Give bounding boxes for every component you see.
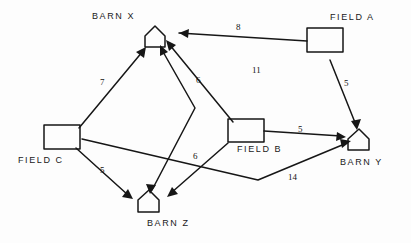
node-label-field-a: FIELD A [330,12,375,22]
edge-weight-barn-z-to-barn-x: 6 [196,75,201,85]
edge-weight-field-b-to-barn-z: 6 [193,151,198,161]
node-field-a[interactable] [307,28,343,52]
edge-weight-field-a-to-barn-y: 5 [344,78,349,88]
node-label-barn-z: BARN Z [147,218,190,228]
edge-weight-field-c-to-barn-y: 14 [288,172,297,182]
node-barn-x[interactable] [145,26,165,47]
edge-weight-field-c-to-barn-z: 5 [100,165,105,175]
node-label-field-b: FIELD B [237,144,282,154]
edge-weight-field-b-to-barn-y: 5 [298,124,303,134]
node-barn-z[interactable] [138,190,159,212]
node-barn-y[interactable] [348,129,369,150]
edge-weight-field-a-to-barn-x: 8 [236,22,241,32]
edge-field-c-to-barn-x [79,47,146,128]
edge-field-a-to-barn-x [179,29,307,41]
node-field-c[interactable] [44,125,80,149]
diagram-canvas: BARN X FIELD A FIELD C FIELD B BARN Y BA… [0,0,411,243]
edge-field-c-to-barn-y [82,139,351,180]
edge-field-a-to-barn-y [330,60,361,130]
node-label-barn-x: BARN X [92,11,135,21]
edge-field-b-to-barn-y [264,131,346,141]
node-label-barn-y: BARN Y [340,157,383,167]
node-label-field-c: FIELD C [18,155,64,165]
graph-svg [0,0,411,243]
edge-weight-field-b-to-barn-x: 11 [252,65,261,75]
edge-weight-field-c-to-barn-x: 7 [100,77,105,87]
